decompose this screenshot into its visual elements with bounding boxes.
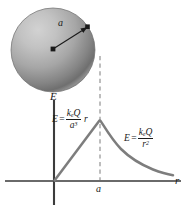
formula-inside-fraction: keQ a3 [66,108,82,130]
formula-outside-numerator: keQ [138,127,154,137]
x-axis-tick-label-a: a [96,184,101,194]
formula-outside-equals: = [131,133,136,143]
formula-outside-denominator: r2 [141,139,150,149]
formula-outside-lhs: E [124,133,130,143]
sphere-radius-label: a [58,18,63,28]
y-axis-label: E [50,91,57,102]
surface-dot [85,24,90,29]
figure-graphics [0,0,184,213]
formula-outside-fraction: keQ r2 [138,127,154,149]
formula-inside-equals: = [59,114,64,124]
formula-inside-numerator: keQ [66,108,82,118]
formula-inside-trailing-r: r [84,114,88,124]
x-axis-label: r [175,175,179,186]
figure-container: E r a a E = keQ a3 r E = keQ r2 [0,0,184,213]
formula-inside-sphere: E = keQ a3 r [52,108,88,130]
formula-inside-lhs: E [52,114,58,124]
formula-inside-denominator: a3 [69,120,79,130]
center-dot [51,47,56,52]
formula-outside-sphere: E = keQ r2 [124,127,154,149]
